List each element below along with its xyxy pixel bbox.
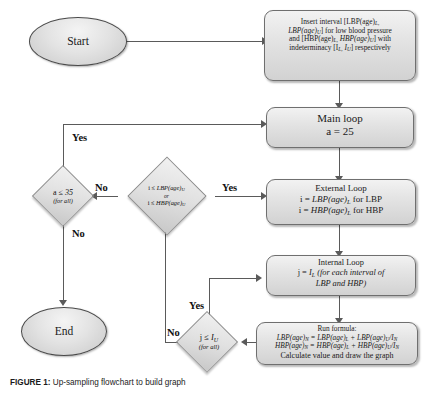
decision-i-check-shape xyxy=(127,156,206,235)
decision-a-check-shape xyxy=(32,165,94,227)
decision-j-check[interactable]: j ≤ IU (for all) xyxy=(175,318,243,366)
ext-line1-post: for LBP xyxy=(351,194,383,204)
ext-line2-post: for HBP xyxy=(351,205,384,215)
f2-a: HBP(age) xyxy=(275,341,305,350)
edge-label-acheck-no: No xyxy=(72,228,85,239)
figure-caption-text: Up-sampling flowchart to build graph xyxy=(51,378,186,387)
insert-line3-text: and [HBP(age) xyxy=(289,34,334,43)
edge-label-icheck-yes: Yes xyxy=(222,182,237,193)
node-end-label: End xyxy=(55,325,74,339)
ext-line1-pre: i = xyxy=(300,194,312,204)
int-line1-post: (for each interval of xyxy=(315,268,384,277)
node-run-formula-line2: HBP(age)N = HBP(age)L + HBP(age)U/IN xyxy=(261,342,413,351)
node-start-label: Start xyxy=(67,35,89,49)
edge-start-to-insert xyxy=(127,41,264,42)
ext-line2-pre: i = xyxy=(299,205,311,215)
node-external-loop-title: External Loop xyxy=(271,183,411,194)
edge-acheck-yes-horizontal xyxy=(63,124,265,125)
edge-icheck-yes-horizontal xyxy=(215,196,265,197)
ext-line1-var: LBP(age) xyxy=(312,194,347,204)
insert-line1-text: Insert interval [LBP(age) xyxy=(301,17,375,26)
node-end[interactable]: End xyxy=(21,307,107,356)
insert-line2-var: LBP(age) xyxy=(288,26,317,35)
figure-caption-label: FIGURE 1: xyxy=(10,378,51,387)
edge-jcheck-yes-arrowhead xyxy=(256,274,262,282)
int-line1-pre: j = xyxy=(298,268,309,277)
edge-label-acheck-yes: Yes xyxy=(72,132,87,143)
node-internal-loop[interactable]: Internal Loop j = IL (for each interval … xyxy=(266,255,416,296)
insert-line3-rest: ] with xyxy=(374,34,391,43)
node-internal-loop-title: Internal Loop xyxy=(271,258,411,268)
decision-a-check[interactable]: a ≤ 35 (for all) xyxy=(29,172,97,220)
node-main-loop-body: a = 25 xyxy=(271,125,409,138)
insert-line3-mid: HBP(age) xyxy=(338,34,370,43)
insert-line4-text: indeterminacy [I xyxy=(289,43,338,52)
edge-jcheck-yes-horizontal xyxy=(209,278,259,279)
node-internal-loop-line2: LBP and HBP) xyxy=(271,279,411,289)
node-external-loop[interactable]: External Loop i = LBP(age)L for LBP i = … xyxy=(266,179,416,225)
node-run-formula-line3: Calculate value and draw the graph xyxy=(261,351,413,360)
f2-plus: + HBP(age) xyxy=(349,341,387,350)
node-insert-interval[interactable]: Insert interval [LBP(age)L, LBP(age)U] f… xyxy=(264,10,416,81)
node-internal-loop-line1: j = IL (for each interval of xyxy=(271,268,411,279)
node-start[interactable]: Start xyxy=(29,17,127,66)
node-external-loop-line2: i = HBP(age)L for HBP xyxy=(271,205,411,216)
insert-line2-rest: ] for low blood pressure xyxy=(321,26,392,35)
insert-line4-rest: ] respectively xyxy=(351,43,391,52)
decision-i-check[interactable]: i ≤ LBP(age)U or i ≤ HBP(age)U xyxy=(118,158,215,234)
f2-eq: = HBP(age) xyxy=(308,341,346,350)
decision-j-check-shape xyxy=(176,311,238,373)
edge-jcheck-no-vertical xyxy=(165,225,166,343)
ext-line2-var: HBP(age) xyxy=(311,205,347,215)
figure-caption: FIGURE 1: Up-sampling flowchart to build… xyxy=(10,378,186,387)
node-external-loop-line1: i = LBP(age)L for LBP xyxy=(271,194,411,205)
flowchart-canvas: Yes No No Yes Yes No Start End Insert in… xyxy=(0,0,425,396)
edge-label-jcheck-yes: Yes xyxy=(189,300,204,311)
node-main-loop-title: Main loop xyxy=(271,112,409,125)
edge-acheck-no-vertical xyxy=(63,220,64,304)
node-main-loop[interactable]: Main loop a = 25 xyxy=(266,107,414,148)
f2-d-sub: N xyxy=(396,345,400,351)
node-run-formula[interactable]: Run formula: LBP(age)N = LBP(age)L + LBP… xyxy=(256,322,418,365)
node-insert-interval-line4: indeterminacy [IL, IU] respectively xyxy=(269,44,411,53)
edge-acheck-no-arrowhead xyxy=(59,300,67,306)
